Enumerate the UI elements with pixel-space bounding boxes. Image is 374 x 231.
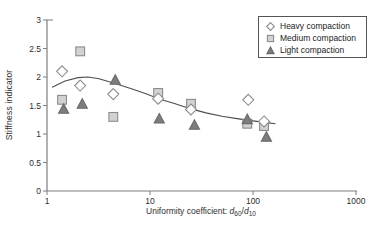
data-point-medium-compaction <box>76 47 85 56</box>
legend-label: Light compaction <box>280 44 344 56</box>
legend-label: Medium compaction <box>280 32 356 44</box>
y-tick-label: 2.5 <box>29 44 41 54</box>
legend-entry-light-compaction: Light compaction <box>265 44 366 56</box>
y-tick-label: 3 <box>36 15 41 25</box>
x-axis-label-segment: Uniformity coefficient: <box>146 206 229 216</box>
y-tick-label: 0 <box>36 186 41 196</box>
data-point-light-compaction <box>261 132 271 141</box>
legend-entry-medium-compaction: Medium compaction <box>265 32 366 44</box>
x-tick-label: 100 <box>246 196 260 206</box>
data-point-heavy-compaction <box>243 94 254 105</box>
data-point-light-compaction <box>110 75 120 84</box>
triangle-icon <box>265 45 276 56</box>
y-tick-label: 0.5 <box>29 158 41 168</box>
trend-curve <box>52 77 275 124</box>
x-tick-label: 1000 <box>347 196 366 206</box>
legend-entry-heavy-compaction: Heavy compaction <box>265 20 366 32</box>
square-glyph <box>267 35 273 41</box>
figure: 00.511.522.531101001000 Stiffness indica… <box>0 0 374 231</box>
triangle-glyph <box>267 46 274 53</box>
legend: Heavy compactionMedium compactionLight c… <box>258 16 367 58</box>
legend-label: Heavy compaction <box>280 20 350 32</box>
data-point-light-compaction <box>154 114 164 123</box>
data-point-heavy-compaction <box>108 89 119 100</box>
diamond-icon <box>265 21 276 32</box>
y-tick-label: 2 <box>36 72 41 82</box>
x-axis-label-segment: 10 <box>249 210 256 217</box>
data-point-medium-compaction <box>109 113 118 122</box>
y-axis-label: Stiffness indicator <box>4 70 14 141</box>
x-tick-label: 1 <box>45 196 50 206</box>
square-icon <box>265 33 276 44</box>
x-tick-label: 10 <box>145 196 155 206</box>
data-point-light-compaction <box>59 104 69 113</box>
data-point-heavy-compaction <box>75 80 86 91</box>
y-tick-label: 1 <box>36 129 41 139</box>
data-point-heavy-compaction <box>57 66 68 77</box>
x-axis-label: Uniformity coefficient: d60/d10 <box>146 206 256 217</box>
diamond-glyph <box>267 22 275 30</box>
data-point-light-compaction <box>189 120 199 129</box>
data-point-light-compaction <box>77 99 87 108</box>
y-tick-label: 1.5 <box>29 101 41 111</box>
data-point-medium-compaction <box>58 95 67 104</box>
